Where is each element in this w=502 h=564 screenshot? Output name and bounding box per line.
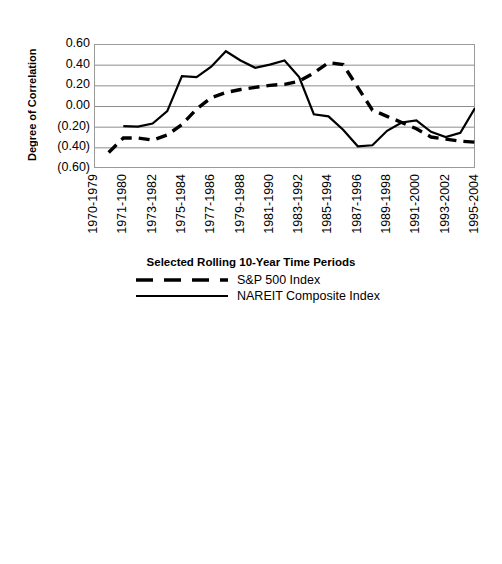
x-tick-label: 1981-1990 (262, 174, 276, 234)
chart-bottom: Degree of Correlation 1.000.800.600.400.… (0, 300, 502, 564)
x-tick-label: 1985-1994 (320, 174, 334, 234)
x-tick-label: 1970-1979 (86, 174, 100, 234)
x-tick-label: 1995-2004 (467, 174, 481, 234)
y-tick-label: 0.20 (66, 78, 90, 91)
legend-label-sp500: S&P 500 Index (237, 274, 320, 287)
x-axis-title-top: Selected Rolling 10-Year Time Periods (0, 256, 502, 268)
y-tick-label: 0.60 (66, 37, 90, 50)
x-tick-label: 1971-1980 (115, 174, 129, 234)
chart-top: Degree of Correlation 0.600.400.200.00(0… (0, 0, 502, 300)
x-tick-label: 1977-1986 (203, 174, 217, 234)
x-tick-label: 1973-1982 (145, 174, 159, 234)
x-tick-label: 1983-1992 (291, 174, 305, 234)
x-tick-label: 1991-2000 (408, 174, 422, 234)
y-tick-label: 0.00 (66, 99, 90, 112)
y-axis-title-top: Degree of Correlation (26, 38, 38, 172)
x-tick-label: 1987-1996 (350, 174, 364, 234)
x-tick-label: 1975-1984 (174, 174, 188, 234)
plot-area-top (94, 44, 475, 168)
x-tick-label: 1979-1988 (233, 174, 247, 234)
dashed-line-swatch-icon (136, 274, 228, 286)
plot-canvas (94, 44, 475, 168)
y-tick-label: 0.40 (66, 58, 90, 71)
x-tick-label: 1993-2002 (438, 174, 452, 234)
legend-item-sp500: S&P 500 Index (136, 274, 320, 287)
x-tick-label: 1989-1998 (379, 174, 393, 234)
y-tick-label: (0.60) (57, 161, 90, 174)
y-tick-label: (0.20) (57, 120, 90, 133)
y-tick-label: (0.40) (57, 140, 90, 153)
